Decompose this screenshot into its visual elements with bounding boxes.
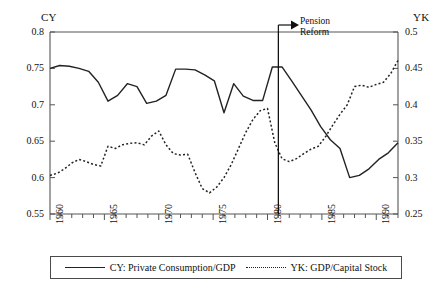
legend-swatch-dotted-icon (246, 267, 286, 268)
legend-item-yk: YK: GDP/Capital Stock (246, 262, 388, 273)
chart-legend: CY: Private Consumption/GDP YK: GDP/Capi… (50, 256, 402, 279)
right-axis-title: YK (413, 11, 429, 23)
series-line-yk (50, 60, 398, 193)
x-tick-label: 1970 (163, 204, 174, 224)
left-tick-label: 0.75 (14, 62, 44, 73)
x-tick-label: 1985 (326, 204, 337, 224)
x-tick-label: 1990 (380, 204, 391, 224)
arrow-right-icon (291, 21, 299, 30)
pension-reform-label-line1: Pension (300, 16, 360, 27)
legend-label-yk: YK: GDP/Capital Stock (291, 262, 388, 273)
x-tick-label: 1960 (54, 204, 65, 224)
pension-reform-annotation (278, 21, 299, 215)
right-tick-label: 0.35 (405, 135, 435, 146)
pension-reform-label-line2: Reform (300, 27, 360, 38)
left-tick-label: 0.6 (14, 172, 44, 183)
left-tick-label: 0.8 (14, 26, 44, 37)
pension-reform-label: Pension Reform (300, 16, 360, 38)
left-axis-title: CY (41, 11, 57, 23)
legend-label-cy: CY: Private Consumption/GDP (110, 262, 236, 273)
axes-group (50, 32, 398, 220)
left-tick-label: 0.7 (14, 99, 44, 110)
chart-plot-area (0, 0, 447, 292)
x-tick-label: 1975 (217, 204, 228, 224)
legend-swatch-solid-icon (65, 267, 105, 268)
x-tick-label: 1980 (272, 204, 283, 224)
series-line-cy (50, 65, 398, 177)
right-tick-label: 0.45 (405, 62, 435, 73)
right-tick-label: 0.5 (405, 26, 435, 37)
legend-item-cy: CY: Private Consumption/GDP (65, 262, 236, 273)
left-tick-label: 0.55 (14, 208, 44, 219)
right-tick-label: 0.25 (405, 208, 435, 219)
x-tick-label: 1965 (108, 204, 119, 224)
series-group (50, 60, 398, 193)
right-tick-label: 0.3 (405, 172, 435, 183)
right-tick-label: 0.4 (405, 99, 435, 110)
chart-figure: CY YK 0.550.60.650.70.750.8 0.250.30.350… (0, 0, 447, 292)
left-tick-label: 0.65 (14, 135, 44, 146)
